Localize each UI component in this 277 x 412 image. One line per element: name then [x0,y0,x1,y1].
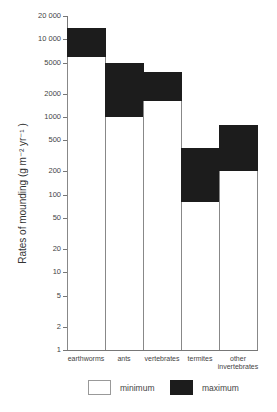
category-label-other: other [218,355,258,363]
y-tick-label: 20 [11,244,61,253]
bar-minimum-other-invertebrates [219,171,258,350]
y-tick-label: 200 [11,166,61,175]
bar-maximum-other-invertebrates [219,125,258,172]
y-tick-label: 500 [11,135,61,144]
category-label-earthworms: earthworms [66,355,106,363]
y-tick-label: 2 [11,322,61,331]
bar-maximum-earthworms [67,28,106,57]
y-tick-label: 1000 [11,112,61,121]
category-label-vertebrates: vertebrates [142,355,182,363]
y-tick-label: 10 [11,267,61,276]
bar-minimum-vertebrates [143,101,182,350]
category-label-termites: termites [180,355,220,363]
x-axis-line [63,350,258,351]
bar-maximum-vertebrates [143,72,182,101]
legend-swatch-minimum [88,380,111,395]
y-tick-label: 50 [11,213,61,222]
y-tick-label: 5000 [11,58,61,67]
bar-maximum-ants [105,63,144,117]
category-label-invertebrates: invertebrates [214,363,262,371]
bar-minimum-termites [181,202,220,350]
y-tick-label: 10 000 [11,34,61,43]
y-tick-label: 20 000 [11,11,61,20]
y-tick-label: 100 [11,190,61,199]
legend-swatch-maximum [170,380,193,395]
legend-label-maximum: maximum [202,383,239,393]
bar-minimum-ants [105,117,144,350]
y-tick-label: 1 [11,345,61,354]
y-tick-label: 2000 [11,89,61,98]
y-tick-label: 5 [11,291,61,300]
category-label-ants: ants [104,355,144,363]
legend-label-minimum: minimum [120,383,154,393]
bar-minimum-earthworms [67,57,106,350]
bar-maximum-termites [181,148,220,202]
